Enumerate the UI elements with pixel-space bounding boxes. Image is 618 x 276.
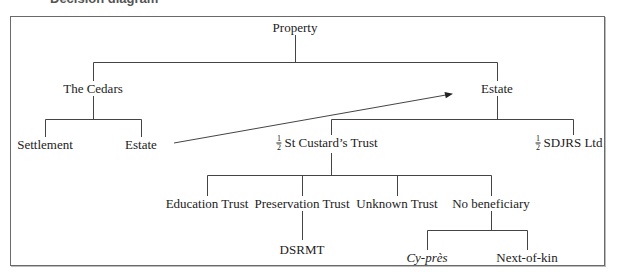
node-dsrmt: DSRMT <box>280 243 325 256</box>
node-sdjrs-ltd: 1 2 SDJRS Ltd <box>536 136 603 153</box>
node-next-of-kin: Next-of-kin <box>496 251 557 264</box>
node-no-beneficiary: No beneficiary <box>452 197 530 210</box>
arrowhead-icon <box>445 92 454 98</box>
node-estate: Estate <box>481 82 513 95</box>
node-settlement: Settlement <box>17 138 73 151</box>
node-preservation-trust: Preservation Trust <box>255 197 350 210</box>
node-the-cedars: The Cedars <box>63 82 123 95</box>
node-education-trust: Education Trust <box>166 197 249 210</box>
st-custards-label: St Custard’s Trust <box>284 135 377 150</box>
node-st-custards-trust: 1 2 St Custard’s Trust <box>276 136 377 153</box>
node-property: Property <box>273 21 318 34</box>
node-cedars-estate: Estate <box>125 138 157 151</box>
sdjrs-label: SDJRS Ltd <box>544 135 603 150</box>
fraction-half: 1 2 <box>536 135 541 152</box>
fraction-half: 1 2 <box>276 135 281 152</box>
node-cy-pres: Cy-près <box>406 251 447 264</box>
node-unknown-trust: Unknown Trust <box>356 197 437 210</box>
